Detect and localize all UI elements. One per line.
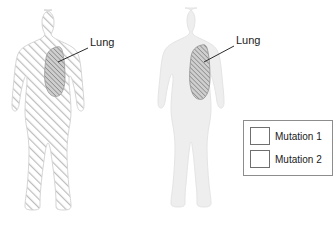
- legend-label-mutation-2: Mutation 2: [275, 154, 322, 165]
- lung-label-right: Lung: [236, 34, 260, 46]
- lung-label-left: Lung: [90, 36, 114, 48]
- lung-mutation-diagram: Lung Lung Mutation 1 Mutation 2: [0, 0, 335, 234]
- lung-region-left: [45, 47, 65, 97]
- legend-label-mutation-1: Mutation 1: [275, 131, 322, 142]
- diagram-canvas: Lung Lung Mutation 1 Mutation 2: [0, 0, 335, 234]
- legend-item-mutation-1[interactable]: Mutation 1: [251, 128, 323, 145]
- legend-swatch-mutation-1: [251, 128, 270, 145]
- legend: Mutation 1 Mutation 2: [244, 121, 333, 176]
- legend-swatch-mutation-2: [251, 151, 270, 168]
- lung-region-right: [190, 45, 210, 100]
- legend-item-mutation-2[interactable]: Mutation 2: [251, 151, 323, 168]
